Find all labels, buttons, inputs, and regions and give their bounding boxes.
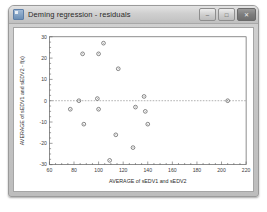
x-tick-label: 60 [47, 167, 53, 173]
window-content: AVERAGE of sEDV1 and sEDV2 - f(x) AVERAG… [13, 27, 254, 192]
minimize-button[interactable]: – [199, 8, 216, 21]
data-point [116, 67, 120, 71]
y-tick-label: 20 [41, 55, 47, 61]
data-point [68, 107, 72, 111]
data-point [143, 110, 147, 114]
x-tick-label: 220 [242, 167, 251, 173]
y-axis-title: AVERAGE of sEDV1 and sEDV2 - f(x) [19, 56, 25, 145]
data-point [108, 159, 112, 163]
y-tick-label: -10 [40, 119, 48, 125]
x-tick-label: 200 [217, 167, 226, 173]
x-tick-label: 140 [144, 167, 153, 173]
window-controls: – □ ✕ [199, 8, 256, 21]
y-tick-label: -20 [40, 140, 48, 146]
data-point [226, 99, 230, 103]
chart-svg: AVERAGE of sEDV1 and sEDV2 - f(x) AVERAG… [14, 28, 253, 191]
data-point [131, 146, 135, 150]
chart-window[interactable]: Deming regression - residuals – □ ✕ AVER… [8, 5, 259, 197]
data-points [68, 41, 229, 162]
data-point [102, 41, 106, 45]
minimize-icon: – [206, 12, 209, 18]
x-axis-ticks: 6080100120140160180200220 [47, 162, 251, 173]
y-tick-label: 30 [41, 34, 47, 40]
maximize-button[interactable]: □ [218, 8, 235, 21]
data-point [95, 97, 99, 101]
x-tick-label: 80 [71, 167, 77, 173]
data-point [81, 52, 85, 56]
data-point [114, 133, 118, 137]
x-tick-label: 120 [119, 167, 128, 173]
x-tick-label: 160 [168, 167, 177, 173]
chart-window-icon [13, 9, 24, 20]
x-axis-title-text: AVERAGE of sEDV1 and sEDV2 [109, 178, 186, 184]
maximize-icon: □ [225, 12, 229, 18]
x-tick-label: 180 [193, 167, 202, 173]
y-tick-label: 0 [44, 98, 47, 104]
data-point [146, 122, 150, 126]
window-titlebar[interactable]: Deming regression - residuals – □ ✕ [9, 6, 258, 24]
data-point [142, 95, 146, 99]
residual-scatter-plot: AVERAGE of sEDV1 and sEDV2 - f(x) AVERAG… [14, 28, 253, 191]
data-point [134, 105, 138, 109]
close-button[interactable]: ✕ [237, 8, 256, 21]
data-point [97, 107, 101, 111]
x-tick-label: 100 [94, 167, 103, 173]
y-axis-title-text: AVERAGE of sEDV1 and sEDV2 - f(x) [19, 56, 25, 145]
x-axis-title: AVERAGE of sEDV1 and sEDV2 [109, 178, 186, 184]
data-point [97, 52, 101, 56]
y-tick-label: 10 [41, 76, 47, 82]
close-icon: ✕ [244, 12, 249, 18]
desktop-background: Deming regression - residuals – □ ✕ AVER… [0, 0, 267, 212]
window-title: Deming regression - residuals [28, 10, 199, 19]
data-point [82, 122, 86, 126]
